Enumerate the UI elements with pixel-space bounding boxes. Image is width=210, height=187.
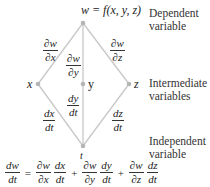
level-line1: Dependent	[149, 7, 199, 20]
frac-num: ∂w	[110, 38, 125, 51]
chain-rule-formula: dw dt = ∂w ∂x dx dt + ∂w ∂y dy dt + ∂w ∂…	[5, 160, 158, 185]
frac-den: ∂x	[45, 51, 55, 63]
node-w-dot	[81, 21, 86, 26]
frac-den: ∂x	[38, 173, 48, 185]
edge-label-dz-dt: dz dt	[112, 108, 124, 133]
node-z-dot	[127, 82, 132, 87]
plus-sign: +	[69, 167, 79, 179]
edge-label-dw-dy: ∂w ∂y	[66, 53, 81, 78]
frac-den: dt	[148, 173, 157, 185]
level-line2: variables	[149, 90, 207, 103]
edge-label-dx-dt: dx dt	[43, 108, 55, 133]
frac-den: dt	[8, 173, 17, 185]
node-x-label: x	[27, 78, 32, 90]
node-t-dot	[81, 144, 86, 149]
term3-derivative: dz dt	[147, 160, 159, 185]
term2-derivative: dy dt	[100, 160, 112, 185]
frac-den: ∂z	[131, 173, 141, 185]
frac-den: dt	[102, 173, 111, 185]
level-line1: Independent	[149, 135, 206, 148]
term1-partial: ∂w ∂x	[36, 160, 51, 185]
frac-num: ∂w	[66, 53, 81, 66]
frac-den: dt	[69, 106, 78, 118]
node-w-label: w = f(x, y, z)	[81, 4, 141, 16]
frac-num: ∂w	[43, 38, 58, 51]
edge-label-dw-dx: ∂w ∂x	[43, 38, 58, 63]
node-y-label: y	[88, 78, 94, 90]
term2-partial: ∂w ∂y	[82, 160, 97, 185]
frac-num: dy	[100, 160, 112, 173]
frac-num: dx	[43, 108, 55, 121]
equals-sign: =	[23, 167, 33, 179]
frac-num: ∂w	[129, 160, 144, 173]
node-y-dot	[81, 82, 86, 87]
node-x-dot	[36, 82, 41, 87]
frac-den: dt	[114, 121, 123, 133]
plus-sign: +	[116, 167, 126, 179]
node-z-label: z	[134, 78, 139, 90]
frac-den: ∂y	[68, 66, 78, 78]
frac-num: dz	[112, 108, 124, 121]
frac-den: dt	[56, 173, 65, 185]
formula-lhs: dw dt	[5, 160, 20, 185]
level-line1: Intermediate	[149, 77, 207, 90]
level-label-intermediate: Intermediate variables	[149, 77, 207, 102]
level-line2: variable	[149, 20, 199, 33]
frac-den: ∂y	[85, 173, 95, 185]
edge-label-dy-dt: dy dt	[67, 93, 79, 118]
frac-num: dx	[54, 160, 66, 173]
frac-num: dy	[67, 93, 79, 106]
edge-label-dw-dz: ∂w ∂z	[110, 38, 125, 63]
frac-num: ∂w	[82, 160, 97, 173]
frac-num: ∂w	[36, 160, 51, 173]
frac-den: dt	[45, 121, 54, 133]
level-label-dependent: Dependent variable	[149, 7, 199, 32]
frac-den: ∂z	[113, 51, 123, 63]
term3-partial: ∂w ∂z	[129, 160, 144, 185]
frac-num: dw	[5, 160, 20, 173]
level-line2: variable	[149, 148, 206, 161]
level-label-independent: Independent variable	[149, 135, 206, 160]
term1-derivative: dx dt	[54, 160, 66, 185]
frac-num: dz	[147, 160, 159, 173]
